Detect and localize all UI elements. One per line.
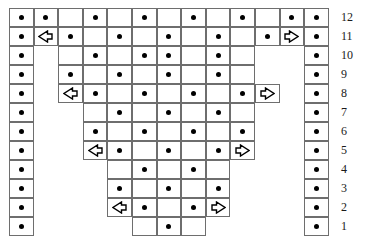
- chart-cell-r10-c7[interactable]: [157, 46, 182, 65]
- chart-cell-r10-c5[interactable]: [107, 46, 132, 65]
- chart-cell-r5-c13[interactable]: [304, 141, 329, 160]
- chart-cell-r12-c11[interactable]: [255, 8, 280, 27]
- chart-cell-r9-c10[interactable]: [230, 65, 255, 84]
- chart-cell-r7-c8[interactable]: [181, 103, 206, 122]
- chart-cell-r6-c13[interactable]: [304, 122, 329, 141]
- chart-cell-r1-c6[interactable]: [132, 217, 157, 236]
- chart-cell-r12-c12[interactable]: [280, 8, 305, 27]
- chart-cell-r9-c5[interactable]: [107, 65, 132, 84]
- chart-cell-r7-c10[interactable]: [230, 103, 255, 122]
- chart-cell-r1-c13[interactable]: [304, 217, 329, 236]
- chart-cell-r7-c4[interactable]: [83, 103, 108, 122]
- chart-cell-r8-c5[interactable]: [107, 84, 132, 103]
- chart-cell-r9-c1[interactable]: [9, 65, 34, 84]
- chart-cell-r12-c2[interactable]: [34, 8, 59, 27]
- chart-cell-r5-c4[interactable]: [83, 141, 108, 160]
- chart-cell-r3-c8[interactable]: [181, 179, 206, 198]
- chart-cell-r1-c1[interactable]: [9, 217, 34, 236]
- chart-cell-r4-c7[interactable]: [157, 160, 182, 179]
- chart-cell-r4-c8[interactable]: [181, 160, 206, 179]
- chart-cell-r5-c5[interactable]: [107, 141, 132, 160]
- chart-cell-r5-c9[interactable]: [206, 141, 231, 160]
- chart-cell-r12-c9[interactable]: [206, 8, 231, 27]
- chart-cell-r2-c9[interactable]: [206, 198, 231, 217]
- chart-cell-r11-c1[interactable]: [9, 27, 34, 46]
- chart-cell-r9-c8[interactable]: [181, 65, 206, 84]
- chart-cell-r1-c8[interactable]: [181, 217, 206, 236]
- chart-cell-r3-c6[interactable]: [132, 179, 157, 198]
- chart-cell-r11-c7[interactable]: [157, 27, 182, 46]
- chart-cell-r10-c3[interactable]: [58, 46, 83, 65]
- chart-cell-r12-c3[interactable]: [58, 8, 83, 27]
- chart-cell-r9-c7[interactable]: [157, 65, 182, 84]
- chart-cell-r11-c5[interactable]: [107, 27, 132, 46]
- chart-cell-r10-c8[interactable]: [181, 46, 206, 65]
- chart-cell-r9-c13[interactable]: [304, 65, 329, 84]
- chart-cell-r2-c5[interactable]: [107, 198, 132, 217]
- chart-cell-r9-c4[interactable]: [83, 65, 108, 84]
- chart-cell-r10-c4[interactable]: [83, 46, 108, 65]
- chart-cell-r4-c9[interactable]: [206, 160, 231, 179]
- chart-cell-r12-c13[interactable]: [304, 8, 329, 27]
- chart-cell-r11-c2[interactable]: [34, 27, 59, 46]
- chart-cell-r10-c13[interactable]: [304, 46, 329, 65]
- chart-cell-r10-c1[interactable]: [9, 46, 34, 65]
- chart-cell-r5-c10[interactable]: [230, 141, 255, 160]
- chart-cell-r8-c11[interactable]: [255, 84, 280, 103]
- chart-cell-r3-c13[interactable]: [304, 179, 329, 198]
- chart-cell-r7-c7[interactable]: [157, 103, 182, 122]
- chart-cell-r6-c9[interactable]: [206, 122, 231, 141]
- chart-cell-r2-c7[interactable]: [157, 198, 182, 217]
- chart-cell-r6-c1[interactable]: [9, 122, 34, 141]
- chart-cell-r7-c6[interactable]: [132, 103, 157, 122]
- chart-cell-r9-c3[interactable]: [58, 65, 83, 84]
- chart-cell-r8-c9[interactable]: [206, 84, 231, 103]
- chart-cell-r6-c6[interactable]: [132, 122, 157, 141]
- chart-cell-r1-c7[interactable]: [157, 217, 182, 236]
- chart-cell-r8-c4[interactable]: [83, 84, 108, 103]
- chart-cell-r8-c3[interactable]: [58, 84, 83, 103]
- chart-cell-r12-c10[interactable]: [230, 8, 255, 27]
- chart-cell-r8-c7[interactable]: [157, 84, 182, 103]
- chart-cell-r6-c8[interactable]: [181, 122, 206, 141]
- chart-cell-r2-c8[interactable]: [181, 198, 206, 217]
- chart-cell-r3-c9[interactable]: [206, 179, 231, 198]
- chart-cell-r2-c13[interactable]: [304, 198, 329, 217]
- chart-cell-r8-c6[interactable]: [132, 84, 157, 103]
- chart-cell-r6-c4[interactable]: [83, 122, 108, 141]
- chart-cell-r11-c4[interactable]: [83, 27, 108, 46]
- chart-cell-r11-c9[interactable]: [206, 27, 231, 46]
- chart-cell-r11-c6[interactable]: [132, 27, 157, 46]
- chart-cell-r10-c10[interactable]: [230, 46, 255, 65]
- chart-cell-r12-c8[interactable]: [181, 8, 206, 27]
- chart-cell-r7-c9[interactable]: [206, 103, 231, 122]
- chart-cell-r7-c1[interactable]: [9, 103, 34, 122]
- chart-cell-r4-c1[interactable]: [9, 160, 34, 179]
- chart-cell-r11-c3[interactable]: [58, 27, 83, 46]
- chart-cell-r8-c1[interactable]: [9, 84, 34, 103]
- chart-cell-r8-c10[interactable]: [230, 84, 255, 103]
- chart-cell-r6-c5[interactable]: [107, 122, 132, 141]
- chart-cell-r3-c7[interactable]: [157, 179, 182, 198]
- chart-cell-r12-c4[interactable]: [83, 8, 108, 27]
- chart-cell-r10-c6[interactable]: [132, 46, 157, 65]
- chart-cell-r12-c7[interactable]: [157, 8, 182, 27]
- chart-cell-r9-c6[interactable]: [132, 65, 157, 84]
- chart-cell-r5-c6[interactable]: [132, 141, 157, 160]
- chart-cell-r8-c8[interactable]: [181, 84, 206, 103]
- chart-cell-r12-c1[interactable]: [9, 8, 34, 27]
- chart-cell-r5-c7[interactable]: [157, 141, 182, 160]
- chart-cell-r3-c1[interactable]: [9, 179, 34, 198]
- chart-cell-r10-c9[interactable]: [206, 46, 231, 65]
- chart-cell-r11-c10[interactable]: [230, 27, 255, 46]
- chart-cell-r11-c13[interactable]: [304, 27, 329, 46]
- chart-cell-r12-c6[interactable]: [132, 8, 157, 27]
- chart-cell-r2-c1[interactable]: [9, 198, 34, 217]
- chart-cell-r7-c5[interactable]: [107, 103, 132, 122]
- chart-cell-r11-c8[interactable]: [181, 27, 206, 46]
- chart-cell-r12-c5[interactable]: [107, 8, 132, 27]
- chart-cell-r11-c11[interactable]: [255, 27, 280, 46]
- chart-cell-r5-c8[interactable]: [181, 141, 206, 160]
- chart-cell-r3-c5[interactable]: [107, 179, 132, 198]
- chart-cell-r7-c13[interactable]: [304, 103, 329, 122]
